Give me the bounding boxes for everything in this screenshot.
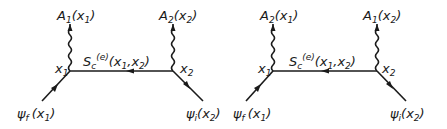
- photon-arrow-icon: [375, 24, 380, 31]
- label-A1-x1: A1(x1): [56, 8, 95, 25]
- label-psi-f-x1: ψf(x1): [17, 106, 55, 123]
- photon-line-left-x1: [69, 24, 72, 71]
- photon-line-right-x1: [272, 24, 275, 71]
- vertex-label-x2: x2: [381, 61, 396, 78]
- photon-arrow-icon: [271, 24, 276, 31]
- diagram-left: A1(x1) A2(x2) x1 x2 Sc(e)(x1,x2) ψf(x1) …: [17, 8, 221, 123]
- vertex-label-x1: x1: [257, 61, 271, 78]
- feynman-diagrams: A1(x1) A2(x2) x1 x2 Sc(e)(x1,x2) ψf(x1) …: [0, 0, 447, 129]
- vertex-label-x2: x2: [179, 61, 194, 78]
- label-psi-f-x1: ψf(x1): [233, 106, 271, 123]
- photon-arrow-icon: [68, 24, 73, 31]
- photon-arrow-icon: [171, 24, 176, 31]
- diagram-right: A2(x1) A1(x2) x1 x2 Sc(e)(x1,x2) ψf(x1) …: [233, 8, 425, 123]
- propagator-label: Sc(e)(x1,x2): [83, 52, 150, 71]
- label-A1-x2: A1(x2): [362, 8, 401, 25]
- vertex-label-x1: x1: [54, 61, 68, 78]
- propagator-label: Sc(e)(x1,x2): [289, 52, 356, 71]
- label-A2-x2: A2(x2): [158, 8, 197, 25]
- photon-line-left-x2: [172, 24, 175, 71]
- label-A2-x1: A2(x1): [259, 8, 298, 25]
- label-psi-i-x2: ψi(x2): [186, 106, 221, 123]
- photon-line-right-x2: [376, 24, 379, 71]
- label-psi-i-x2: ψi(x2): [390, 106, 425, 123]
